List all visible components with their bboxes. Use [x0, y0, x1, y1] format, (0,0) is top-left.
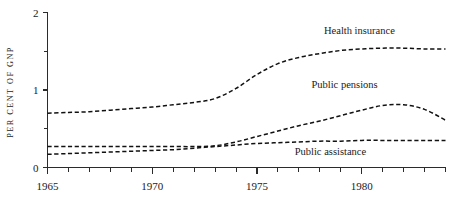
y-axis-tick-label: 2	[33, 7, 39, 19]
series-label-health-insurance: Health insurance	[324, 25, 395, 36]
series-line-health-insurance	[48, 48, 446, 113]
line-chart: 1965197019751980 012 Health insurancePub…	[0, 0, 461, 210]
series-inline-labels: Health insurancePublic pensionsPublic as…	[295, 25, 396, 157]
x-axis-tick-label: 1970	[141, 180, 164, 192]
y-axis-tick-label: 0	[33, 162, 39, 174]
series-line-public-assistance	[48, 140, 446, 154]
x-axis-tick-labels: 1965197019751980	[37, 180, 374, 192]
series-label-public-assistance: Public assistance	[295, 146, 367, 157]
x-axis-tick-label: 1980	[351, 180, 374, 192]
chart-axes	[43, 13, 446, 174]
chart-figure: 1965197019751980 012 Health insurancePub…	[0, 0, 461, 210]
x-axis-tick-label: 1975	[246, 180, 269, 192]
y-axis-tick-label: 1	[33, 84, 39, 96]
y-axis-title: PER CENT OF GNP	[6, 46, 15, 138]
x-axis-tick-label: 1965	[37, 180, 60, 192]
series-label-public-pensions: Public pensions	[311, 79, 377, 90]
y-axis-tick-labels: 012	[33, 7, 39, 174]
chart-series-lines	[48, 48, 446, 154]
series-line-public-pensions	[48, 104, 446, 146]
